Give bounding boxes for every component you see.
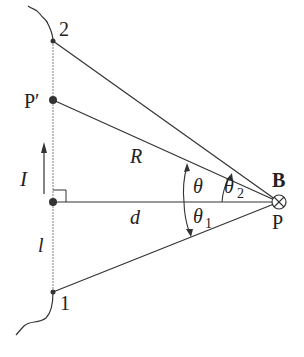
svg-text:2: 2 <box>237 186 244 201</box>
current-arrow-icon <box>41 142 47 153</box>
angle-theta-arrow-icon <box>184 163 190 172</box>
point-1-dot <box>51 290 56 295</box>
field-into-page-icon <box>272 195 286 209</box>
label-theta: θ <box>193 175 203 197</box>
diagram-canvas: 2 P′ I R d l 1 θ θ 1 θ 2 B P <box>0 0 304 357</box>
line-r-pprime-to-p <box>53 100 279 202</box>
foot-point-dot <box>49 198 57 206</box>
point-2-dot <box>51 39 56 44</box>
label-d: d <box>130 206 141 228</box>
label-current-i: I <box>19 167 28 191</box>
label-point-2: 2 <box>59 18 69 40</box>
label-point-p-prime: P′ <box>24 90 40 112</box>
label-field-b: B <box>272 169 285 191</box>
wire-bottom-wavy-end <box>16 292 53 335</box>
label-theta2: θ 2 <box>224 175 244 201</box>
svg-text:θ: θ <box>193 205 203 227</box>
point-p-prime-dot <box>49 96 57 104</box>
angle-theta1-arrow-icon <box>186 229 193 237</box>
line-1-to-p <box>53 202 279 292</box>
line-2-to-p <box>53 41 279 202</box>
label-point-1: 1 <box>60 292 70 314</box>
svg-text:1: 1 <box>205 216 212 231</box>
label-l: l <box>38 234 44 256</box>
label-r: R <box>129 145 142 167</box>
svg-text:θ: θ <box>224 175 234 197</box>
wire-top-wavy-end <box>28 6 53 41</box>
label-point-p: P <box>272 211 283 233</box>
label-theta1: θ 1 <box>193 205 212 231</box>
